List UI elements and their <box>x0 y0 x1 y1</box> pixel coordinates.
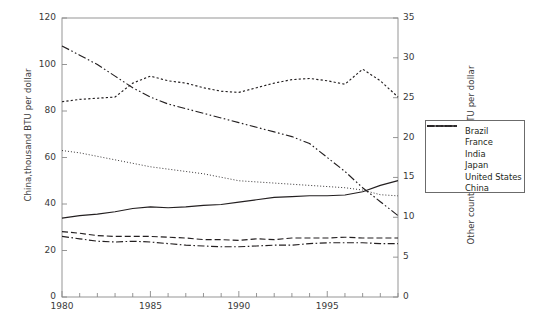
legend-label: India <box>465 149 486 159</box>
legend-key-icon <box>430 160 462 170</box>
legend-item-china[interactable]: China <box>430 183 524 194</box>
chart-container: China,thousand BTU per dollar Other coun… <box>0 0 540 320</box>
legend-item-japan[interactable]: Japan <box>430 160 524 171</box>
series-line-china <box>62 46 398 216</box>
legend-key-icon <box>430 172 462 182</box>
legend-key-icon <box>430 137 462 147</box>
legend-item-united-states[interactable]: United States <box>430 171 524 182</box>
series-line-japan <box>62 236 398 246</box>
legend-label: France <box>465 137 493 147</box>
legend: BrazilFranceIndiaJapanUnited StatesChina <box>425 120 525 193</box>
legend-key-icon <box>430 149 462 159</box>
legend-label: Brazil <box>465 126 488 136</box>
plot-frame <box>62 18 398 297</box>
series-line-france <box>62 232 398 241</box>
series-line-brazil <box>62 181 398 218</box>
legend-label: China <box>465 183 489 193</box>
legend-item-india[interactable]: India <box>430 148 524 159</box>
legend-label: United States <box>465 172 522 182</box>
series-line-united-states <box>62 151 398 196</box>
legend-key-icon <box>430 183 462 193</box>
legend-label: Japan <box>465 160 488 170</box>
legend-item-france[interactable]: France <box>430 137 524 148</box>
